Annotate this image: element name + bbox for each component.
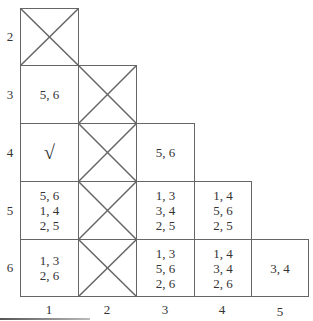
cell-text: 5, 6 1, 4 2, 5 xyxy=(40,188,60,233)
cross-icon xyxy=(79,124,136,181)
cell-text: 5, 6 xyxy=(40,87,60,102)
col-label-1: 1 xyxy=(39,302,59,318)
cell-r5-c2-crossed xyxy=(78,181,137,240)
row-label-4: 4 xyxy=(0,145,20,161)
cell-r3-c1: 5, 6 xyxy=(20,65,79,124)
cross-icon xyxy=(79,182,136,239)
cross-icon xyxy=(79,240,136,296)
cell-r6-c1: 1, 3 2, 6 xyxy=(20,239,79,297)
cell-r6-c3: 1, 3 5, 6 2, 6 xyxy=(136,239,195,297)
cell-r6-c4: 1, 4 3, 4 2, 6 xyxy=(194,239,252,297)
cell-text: 1, 3 2, 6 xyxy=(40,253,60,283)
cell-text: 3, 4 xyxy=(270,261,290,276)
cell-r6-c2-crossed xyxy=(78,239,137,297)
col-label-5: 5 xyxy=(270,304,290,320)
row-label-5: 5 xyxy=(0,203,20,219)
row-label-6: 6 xyxy=(0,260,20,276)
cell-text: 1, 3 5, 6 2, 6 xyxy=(156,246,176,291)
cross-icon xyxy=(21,9,78,65)
cell-text: 5, 6 xyxy=(156,145,176,160)
cell-text: 1, 4 3, 4 2, 6 xyxy=(213,246,233,291)
row-label-3: 3 xyxy=(0,87,20,103)
col-label-3: 3 xyxy=(155,302,175,318)
cell-r3-c2-crossed xyxy=(78,65,137,124)
cell-r5-c3: 1, 3 3, 4 2, 5 xyxy=(136,181,195,240)
cell-r5-c1: 5, 6 1, 4 2, 5 xyxy=(20,181,79,240)
cell-text: 1, 3 3, 4 2, 5 xyxy=(156,188,176,233)
divider-line xyxy=(0,318,90,320)
cell-r4-c1-check: √ xyxy=(20,123,79,182)
cell-r6-c5: 3, 4 xyxy=(251,239,309,297)
cell-r2-c1-crossed xyxy=(20,8,79,66)
col-label-4: 4 xyxy=(212,302,232,318)
checkmark-icon: √ xyxy=(44,145,55,160)
cell-text: 1, 4 5, 6 2, 5 xyxy=(213,188,233,233)
col-label-2: 2 xyxy=(97,302,117,318)
cell-r4-c2-crossed xyxy=(78,123,137,182)
cross-icon xyxy=(79,66,136,123)
cell-r4-c3: 5, 6 xyxy=(136,123,195,182)
row-label-2: 2 xyxy=(0,29,20,45)
cell-r5-c4: 1, 4 5, 6 2, 5 xyxy=(194,181,252,240)
